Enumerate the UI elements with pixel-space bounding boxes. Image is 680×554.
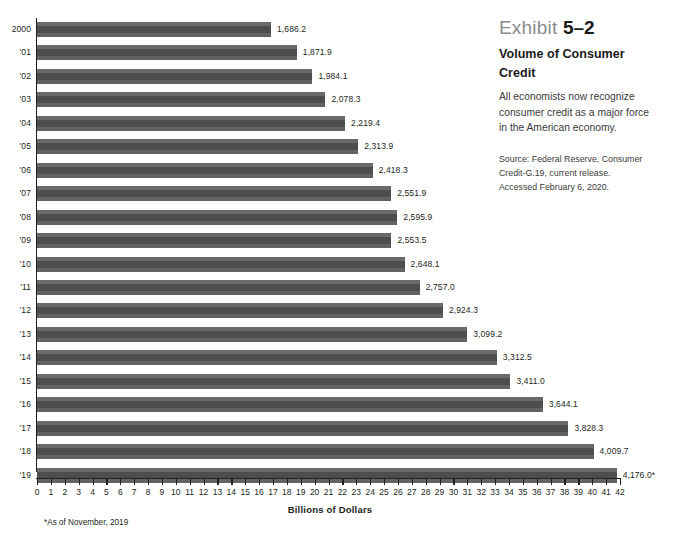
x-axis-tick: [342, 479, 343, 485]
exhibit-word: Exhibit: [499, 17, 557, 38]
bar: [37, 163, 373, 178]
x-axis-tick: [495, 479, 496, 485]
x-axis-tick: [356, 479, 357, 485]
bar-value-label: 2,757.0: [426, 280, 455, 295]
bar-value-label: 2,553.5: [397, 233, 426, 248]
x-axis-tick: [287, 479, 288, 485]
bar-value-label: 2,078.3: [331, 92, 360, 107]
x-axis-tick: [162, 479, 163, 485]
bar-value-label: 2,648.1: [411, 257, 440, 272]
x-axis-tick: [65, 479, 66, 485]
category-label: '16: [0, 397, 31, 412]
category-label: '10: [0, 257, 31, 272]
x-axis-tick: [440, 479, 441, 485]
x-axis-tick: [259, 479, 260, 485]
bar: [37, 139, 358, 154]
x-axis-tick: [190, 479, 191, 485]
x-axis-tick: [370, 479, 371, 485]
bar: [37, 22, 271, 37]
category-label: 2000: [0, 22, 31, 37]
x-axis-tick: [467, 479, 468, 485]
category-label: '04: [0, 116, 31, 131]
category-label: '06: [0, 163, 31, 178]
chart-panel: 20001,686.2'011,871.9'021,984.1'032,078.…: [0, 0, 480, 554]
category-label: '11: [0, 280, 31, 295]
x-axis-tick: [329, 479, 330, 485]
x-axis-tick: [176, 479, 177, 485]
category-label: '05: [0, 139, 31, 154]
x-axis-tick: [426, 479, 427, 485]
x-axis-tick: [79, 479, 80, 485]
exhibit-number: 5–2: [563, 17, 595, 38]
bar: [37, 257, 405, 272]
category-label: '12: [0, 303, 31, 318]
bar: [37, 45, 297, 60]
panel-description: All economists now recognize consumer cr…: [499, 89, 657, 136]
x-axis-tick: [148, 479, 149, 485]
x-axis-tick: [273, 479, 274, 485]
bar: [37, 280, 420, 295]
category-label: '18: [0, 444, 31, 459]
bar: [37, 233, 391, 248]
bar-value-label: 3,099.2: [473, 327, 502, 342]
y-axis-line: [36, 18, 37, 472]
category-label: '14: [0, 350, 31, 365]
x-axis-tick: [37, 479, 38, 485]
category-label: '07: [0, 186, 31, 201]
category-label: '17: [0, 421, 31, 436]
x-axis-tick: [231, 479, 232, 485]
bar-value-label: 2,313.9: [364, 139, 393, 154]
bar-value-label: 2,219.4: [351, 116, 380, 131]
bar-value-label: 2,551.9: [397, 186, 426, 201]
bar: [37, 327, 467, 342]
x-axis-tick: [93, 479, 94, 485]
x-axis-tick: [384, 479, 385, 485]
bar-value-label: 2,418.3: [379, 163, 408, 178]
bar-value-label: 2,924.3: [449, 303, 478, 318]
x-axis-tick: [134, 479, 135, 485]
category-label: '19: [0, 468, 31, 483]
bar: [37, 374, 510, 389]
bar-value-label: 1,984.1: [318, 69, 347, 84]
x-axis-tick: [204, 479, 205, 485]
category-label: '02: [0, 69, 31, 84]
x-axis-tick: [106, 479, 107, 485]
bar: [37, 350, 497, 365]
exhibit-heading: Exhibit 5–2: [499, 16, 595, 40]
x-axis-tick: [398, 479, 399, 485]
category-label: '15: [0, 374, 31, 389]
bar: [37, 421, 568, 436]
x-axis-tick: [120, 479, 121, 485]
bar: [37, 69, 312, 84]
category-label: '13: [0, 327, 31, 342]
bar: [37, 92, 325, 107]
x-axis-tick: [51, 479, 52, 485]
bar: [37, 303, 443, 318]
bar: [37, 116, 345, 131]
category-label: '09: [0, 233, 31, 248]
x-axis-tick: [412, 479, 413, 485]
bar: [37, 397, 543, 412]
bar-value-label: 1,686.2: [277, 22, 306, 37]
bar: [37, 186, 391, 201]
x-axis-tick: [481, 479, 482, 485]
panel-source: Source: Federal Reserve, Consumer Credit…: [499, 152, 649, 194]
bar-value-label: 1,871.9: [303, 45, 332, 60]
category-label: '08: [0, 210, 31, 225]
x-axis-title: Billions of Dollars: [180, 504, 480, 515]
x-axis-tick: [217, 479, 218, 485]
bar: [37, 210, 397, 225]
chart-footnote: *As of November, 2019: [44, 518, 128, 527]
category-label: '03: [0, 92, 31, 107]
side-panel: Exhibit 5–2 Volume of Consumer Credit Al…: [499, 0, 669, 554]
category-label: '01: [0, 45, 31, 60]
x-axis-tick: [315, 479, 316, 485]
x-axis-tick: [301, 479, 302, 485]
bar-value-label: 2,595.9: [403, 210, 432, 225]
x-axis-tick: [245, 479, 246, 485]
x-axis-tick: [453, 479, 454, 485]
panel-title: Volume of Consumer Credit: [499, 45, 659, 83]
